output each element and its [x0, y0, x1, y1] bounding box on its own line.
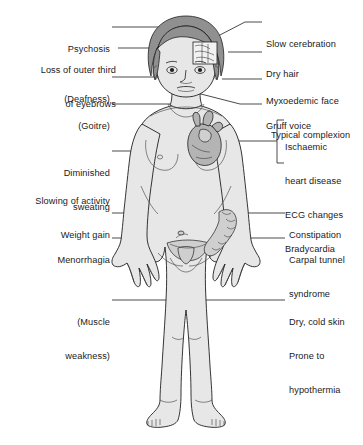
diagram-canvas: .bodyfill { fill:#e7e7e7; stroke:#1f1f1f…: [0, 0, 363, 445]
pupil-left: [170, 68, 174, 72]
body-figure: [112, 16, 260, 427]
label-heart-disease: heart disease: [285, 176, 363, 187]
leader-slow-cerebration-hook: [218, 22, 245, 36]
label-muscle-weakness: (Muscle weakness): [10, 294, 110, 385]
leader-gruff-voice-hook: [197, 93, 240, 104]
label-dry-cold-skin-line-1: Dry, cold skin: [289, 317, 363, 328]
label-dry-cold-skin-line-2: Prone to: [289, 351, 363, 362]
label-carpal-tunnel-line-1: Carpal tunnel: [289, 255, 363, 266]
pupil-right: [198, 68, 202, 72]
label-menorrhagia: Menorrhagia: [10, 232, 110, 289]
label-goitre-line-1: (Goitre): [10, 121, 110, 132]
label-dry-cold-skin: Dry, cold skin Prone to hypothermia: [289, 294, 363, 419]
label-slowing-of-activity-line-1: Slowing of activity: [8, 196, 110, 207]
label-dry-cold-skin-line-3: hypothermia: [289, 385, 363, 396]
label-muscle-weakness-line-1: (Muscle: [10, 317, 110, 328]
label-menorrhagia-line-1: Menorrhagia: [10, 255, 110, 266]
label-muscle-weakness-line-2: weakness): [10, 351, 110, 362]
label-ischaemic: Ischaemic: [285, 142, 363, 153]
